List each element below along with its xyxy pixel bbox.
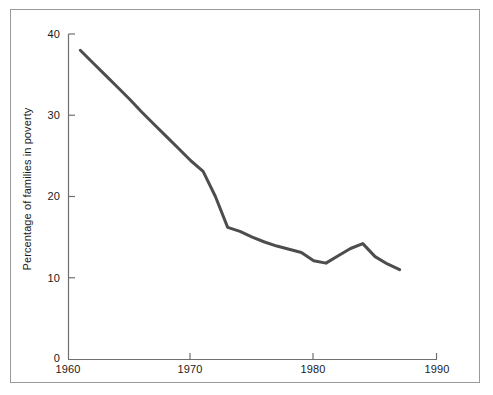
line-chart-plot <box>0 0 493 395</box>
chart-figure: 40 30 20 10 0 1960 1970 1980 1990 Percen… <box>0 0 493 395</box>
x-tick-label-1960: 1960 <box>43 363 93 375</box>
x-tick-label-1970: 1970 <box>165 363 215 375</box>
y-axis-title: Percentage of families in poverty <box>21 84 33 294</box>
data-series-line <box>80 50 399 269</box>
x-tick-label-1980: 1980 <box>288 363 338 375</box>
x-tick-label-1990: 1990 <box>412 363 462 375</box>
y-tick-label-40: 40 <box>20 28 60 40</box>
